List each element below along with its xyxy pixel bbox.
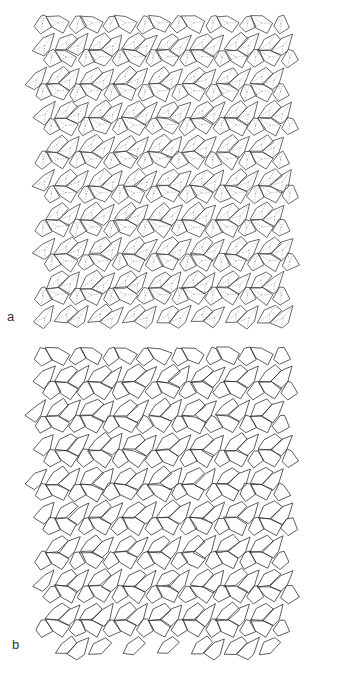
panel-a-tiling	[22, 10, 304, 336]
panel-b-tiling	[22, 342, 304, 662]
tiling-figure-a	[22, 10, 304, 336]
panel-label-b: b	[12, 637, 19, 652]
panel-label-a: a	[7, 309, 14, 324]
tiling-figure-b	[22, 342, 304, 662]
